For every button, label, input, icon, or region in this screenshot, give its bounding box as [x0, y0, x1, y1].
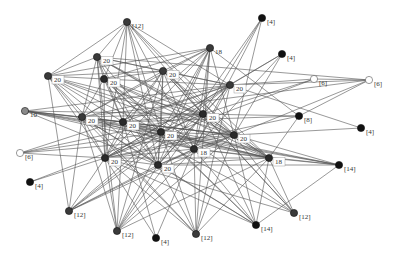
node-label: 18 — [200, 149, 208, 157]
graph-edge — [234, 128, 361, 135]
node-label: [14] — [344, 165, 356, 173]
node-label: 20 — [54, 76, 62, 84]
node-label: 20 — [164, 165, 172, 173]
node-dot-icon — [290, 209, 297, 216]
node-label: [4] — [161, 238, 169, 246]
node-dot-icon — [226, 81, 233, 88]
node-label: 20 — [110, 79, 118, 87]
graph-edge — [194, 149, 196, 234]
node-label: 18 — [215, 48, 223, 56]
node-dot-icon — [113, 227, 120, 234]
node-label: 20 — [103, 57, 111, 65]
graph-edge — [30, 158, 105, 182]
node-dot-icon — [152, 234, 159, 241]
node-dot-icon — [199, 110, 206, 117]
node-label: 20 — [240, 135, 248, 143]
graph-edge — [82, 57, 97, 117]
graph-node: [4] — [278, 50, 295, 62]
graph-edge — [105, 158, 256, 225]
node-label: [12] — [201, 234, 213, 242]
node-dot-icon — [154, 161, 161, 168]
node-label: [12] — [299, 213, 311, 221]
graph-edge — [48, 57, 97, 76]
graph-node: 20 — [154, 161, 174, 173]
node-dot-icon — [335, 161, 342, 168]
node-dot-icon — [78, 113, 85, 120]
network-graph: [12][4]2018[4]20202020[6][6]1020202020[8… — [0, 0, 397, 258]
graph-edge — [234, 135, 294, 213]
node-dot-icon — [190, 145, 197, 152]
node-label: [8] — [304, 116, 312, 124]
graph-node: [12] — [290, 209, 310, 221]
graph-node: 20 — [101, 154, 121, 166]
graph-node: [6] — [310, 75, 327, 87]
graph-node: [12] — [192, 230, 212, 242]
graph-node: 20 — [226, 81, 246, 93]
graph-node: [4] — [258, 14, 275, 26]
graph-node: [6] — [365, 76, 382, 88]
node-label: [6] — [319, 79, 327, 87]
graph-node: [4] — [152, 234, 169, 246]
graph-node: 18 — [265, 154, 285, 166]
node-dot-icon — [278, 50, 285, 57]
node-dot-icon — [230, 131, 237, 138]
node-dot-icon — [21, 107, 28, 114]
node-dot-icon — [206, 44, 213, 51]
graph-node: [8] — [295, 112, 312, 124]
graph-edge — [105, 158, 117, 231]
node-label: [6] — [25, 153, 33, 161]
node-dot-icon — [159, 67, 166, 74]
node-dot-icon — [119, 118, 126, 125]
node-label: 20 — [88, 117, 96, 125]
graph-edge — [104, 22, 127, 79]
node-dot-icon — [252, 221, 259, 228]
node-label: [4] — [267, 18, 275, 26]
graph-node: [14] — [335, 161, 355, 173]
node-dot-icon — [265, 154, 272, 161]
graph-node: [4] — [357, 124, 374, 136]
node-dot-icon — [26, 178, 33, 185]
node-dot-icon — [101, 154, 108, 161]
node-label: [12] — [122, 231, 134, 239]
graph-edge — [299, 80, 369, 116]
node-dot-icon — [258, 14, 265, 21]
node-dot-icon — [157, 128, 164, 135]
graph-edge — [256, 158, 269, 225]
graph-edge — [234, 80, 369, 135]
node-dot-icon — [357, 124, 364, 131]
node-label: 18 — [275, 158, 283, 166]
node-label: 20 — [236, 85, 244, 93]
node-label: 10 — [30, 111, 38, 119]
node-dot-icon — [65, 207, 72, 214]
node-label: [4] — [366, 128, 374, 136]
graph-node: 10 — [21, 107, 37, 119]
node-label: 20 — [129, 122, 137, 130]
node-dot-icon — [192, 230, 199, 237]
node-label: [6] — [374, 80, 382, 88]
node-label: 20 — [111, 158, 119, 166]
node-label: [4] — [35, 182, 43, 190]
graph-node: 20 — [44, 72, 64, 84]
node-dot-icon — [295, 112, 302, 119]
node-dot-icon — [100, 75, 107, 82]
node-label: 20 — [167, 132, 175, 140]
graph-edge — [269, 116, 299, 158]
node-dot-icon — [93, 53, 100, 60]
graph-edge — [69, 117, 82, 211]
graph-edge — [210, 48, 299, 116]
node-label: [14] — [261, 225, 273, 233]
node-dot-icon — [365, 76, 372, 83]
node-label: [4] — [287, 54, 295, 62]
node-label: [12] — [132, 22, 144, 30]
node-dot-icon — [16, 149, 23, 156]
node-dot-icon — [310, 75, 317, 82]
node-label: 20 — [209, 114, 217, 122]
node-label: [12] — [74, 211, 86, 219]
graph-node: [12] — [113, 227, 133, 239]
graph-edges — [20, 18, 369, 238]
node-label: 20 — [169, 71, 177, 79]
node-dot-icon — [44, 72, 51, 79]
graph-node: [12] — [65, 207, 85, 219]
graph-node: 20 — [93, 53, 113, 65]
node-dot-icon — [123, 18, 130, 25]
